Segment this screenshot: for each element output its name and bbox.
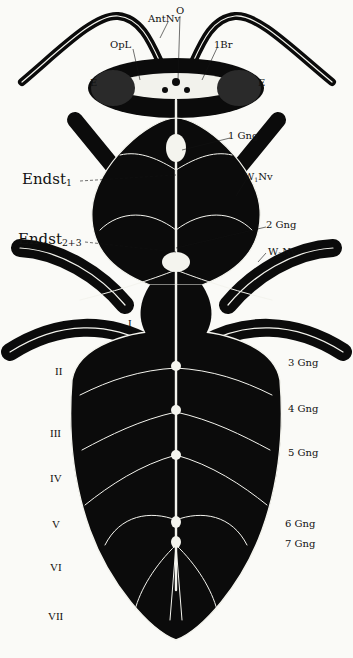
label-ganglion-3: 3 Gng <box>288 358 318 368</box>
label-wing-nerve-2: W2Nv <box>268 247 297 258</box>
ganglion-4 <box>171 405 181 415</box>
label-segment-6: VI <box>50 562 62 573</box>
label-eye-right: E <box>258 78 265 88</box>
ganglion-6 <box>171 516 181 528</box>
label-ganglion-7: 7 Gng <box>285 539 315 549</box>
ganglion-2-3 <box>162 252 190 272</box>
label-segment-5: V <box>52 519 60 530</box>
label-segment-1: I <box>128 318 132 329</box>
label-ganglion-2: 2 Gng <box>266 220 296 230</box>
label-segment-7: VII <box>48 611 63 622</box>
ganglion-3 <box>171 361 181 371</box>
ganglion-7 <box>171 536 181 548</box>
label-optic-lobe: OpL <box>110 40 131 50</box>
compound-eye-left <box>91 70 135 106</box>
label-ganglion-6: 6 Gng <box>285 519 315 529</box>
label-wing-nerve-1: W1Nv <box>244 172 273 183</box>
label-eye-left: E <box>90 78 97 88</box>
ganglion-1 <box>166 134 186 162</box>
label-ganglion-5: 5 Gng <box>288 448 318 458</box>
compound-eye-right <box>217 70 261 106</box>
label-ganglion-4: 4 Gng <box>288 404 318 414</box>
label-endosternite-2-3: Endst2+3 <box>18 232 82 248</box>
label-ganglion-1: 1 Gng <box>228 131 258 141</box>
label-endosternite-1: Endst1 <box>22 172 72 188</box>
ganglion-5 <box>171 450 181 460</box>
label-brain: 1Br <box>214 40 233 50</box>
label-segment-2: II <box>55 366 62 377</box>
nervous-system-diagram: AntNv O OpL 1Br E E 1 Gng Endst1 W1Nv 2 … <box>0 0 353 658</box>
label-segment-4: IV <box>50 473 62 484</box>
insect-illustration <box>0 0 353 658</box>
label-ocellus: O <box>176 6 184 16</box>
label-segment-3: III <box>50 428 61 439</box>
